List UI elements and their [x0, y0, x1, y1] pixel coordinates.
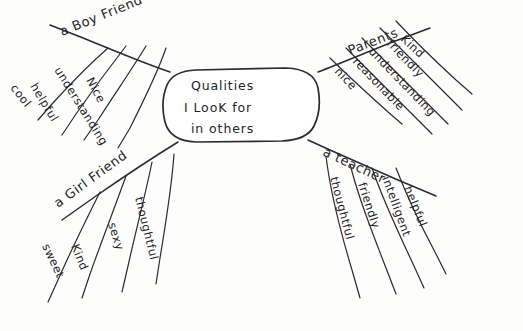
branch-parents[interactable]: Parents Kind friendly understanding reas…: [318, 21, 472, 134]
branch-girl-friend[interactable]: a Girl Friend sweet Kind sexy thoughtful: [39, 142, 178, 302]
branch-girl-friend-label: a Girl Friend: [51, 147, 130, 210]
center-line-2: I LooK for: [184, 100, 252, 115]
twig-line-thoughtful: [156, 154, 174, 284]
branch-teacher[interactable]: a teacher helpful intelligent friendly t…: [308, 140, 446, 298]
mind-map-canvas: Qualities I LooK for in others a Boy Fri…: [0, 0, 523, 331]
twig-label-sweet: sweet: [39, 241, 67, 280]
twig-label-sexy: sexy: [105, 221, 127, 252]
branch-boy-friend[interactable]: a Boy Friend cool helpful understanding …: [8, 0, 170, 148]
center-node[interactable]: Qualities I LooK for in others: [163, 68, 319, 142]
mind-map-drawing: Qualities I LooK for in others a Boy Fri…: [0, 0, 523, 331]
twig-line-nice: [118, 48, 166, 148]
twig-label-thoughtful-2: thoughtful: [327, 175, 357, 241]
branch-boy-friend-label: a Boy Friend: [58, 0, 145, 39]
center-line-3: in others: [191, 121, 254, 136]
center-line-1: Qualities: [191, 78, 254, 93]
twig-label-kind-2: Kind: [68, 242, 91, 273]
